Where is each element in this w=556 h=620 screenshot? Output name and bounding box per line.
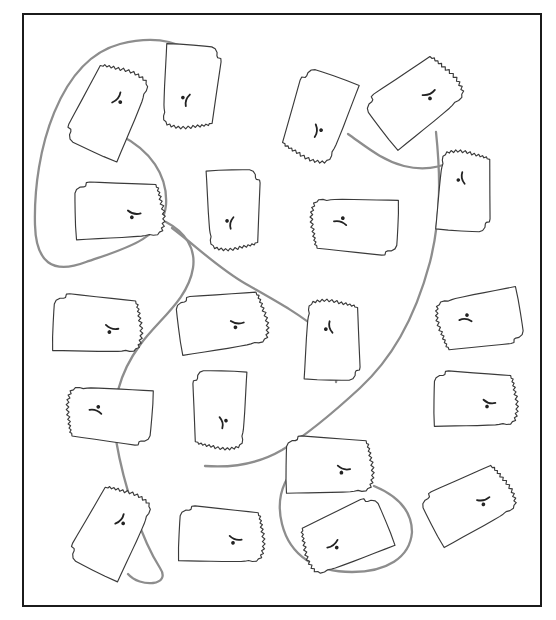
- figure-stage: [0, 0, 556, 620]
- figure-frame-border: [22, 13, 542, 607]
